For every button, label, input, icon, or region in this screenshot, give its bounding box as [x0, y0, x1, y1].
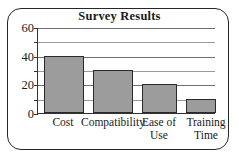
bar-compatibility [93, 70, 133, 113]
bar-ease-of-use [142, 84, 177, 113]
x-label-line: Ease of [136, 116, 182, 129]
plot-area [37, 28, 215, 114]
x-axis-label-ease-of-use: Ease of Use [136, 116, 182, 141]
x-axis-labels: Cost Compatibility Ease of Use Training … [37, 116, 215, 150]
bar-cost [44, 56, 84, 113]
x-label-line: Compatibility [81, 116, 143, 129]
y-axis-label-20: 20 [22, 78, 35, 93]
x-label-line: Training [182, 116, 230, 129]
x-axis-label-compatibility: Compatibility [81, 116, 143, 129]
chart-title: Survey Results [0, 9, 239, 24]
y-axis-labels: 0 20 40 60 [10, 28, 34, 114]
x-label-line: Use [136, 129, 182, 142]
y-axis-label-60: 60 [22, 21, 35, 36]
bar-series [38, 28, 215, 113]
bar-training-time [186, 99, 216, 113]
y-tick-0 [34, 114, 38, 115]
x-label-line: Time [182, 129, 230, 142]
y-axis-label-40: 40 [22, 49, 35, 64]
chart-screenshot: Survey Results 0 20 40 60 [0, 0, 239, 159]
x-axis-label-training-time: Training Time [182, 116, 230, 141]
